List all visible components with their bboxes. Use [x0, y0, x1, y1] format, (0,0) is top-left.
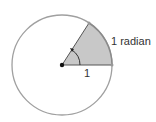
radius-label: 1	[84, 67, 90, 79]
radian-diagram	[0, 0, 156, 122]
arc-endpoint-top	[88, 22, 91, 25]
sector-shaded	[62, 23, 112, 65]
arc-endpoint	[111, 64, 114, 67]
center-dot	[60, 63, 64, 67]
arc-label: 1 radian	[111, 35, 151, 47]
